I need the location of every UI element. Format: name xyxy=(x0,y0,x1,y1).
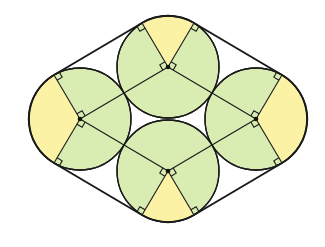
sectors xyxy=(29,16,307,222)
center-dot-bottom xyxy=(166,169,171,174)
center-dot-top xyxy=(166,65,171,70)
center-dot-right xyxy=(254,117,259,122)
four-circles-band-diagram xyxy=(0,0,325,247)
center-dot-left xyxy=(78,117,83,122)
